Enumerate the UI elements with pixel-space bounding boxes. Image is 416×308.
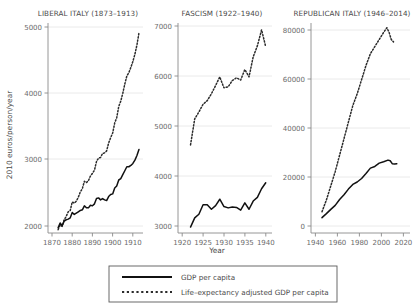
x-tick-label: 2020 [394, 239, 412, 247]
y-tick-label: 60000 [283, 76, 305, 84]
x-tick-label: 1940 [306, 239, 324, 247]
chart-svg: 2010 euros/person/year Year LIBERAL ITAL… [0, 0, 416, 308]
legend-label-gdp-per-capita: GDP per capita [181, 273, 235, 282]
x-tick-label: 1935 [236, 239, 254, 247]
x-tick-label: 1980 [350, 239, 368, 247]
y-tick-label: 2000 [24, 223, 42, 231]
y-tick-label: 80000 [283, 27, 305, 35]
x-tick-label: 1925 [194, 239, 212, 247]
y-tick-label: 5000 [24, 24, 42, 32]
legend-label-life-expectancy-adjusted: Life–expectancy adjusted GDP per capita [181, 288, 329, 297]
y-tick-label: 0 [301, 223, 305, 231]
y-tick-label: 3000 [24, 156, 42, 164]
x-tick-label: 1940 [257, 239, 275, 247]
x-tick-label: 1880 [63, 239, 81, 247]
y-tick-label: 7000 [154, 23, 172, 31]
legend: GDP per capita Life–expectancy adjusted … [109, 266, 337, 302]
x-tick-label: 1870 [43, 239, 61, 247]
x-tick-label: 2000 [372, 239, 390, 247]
x-tick-label: 1960 [328, 239, 346, 247]
x-tick-label: 1910 [124, 239, 142, 247]
y-tick-label: 20000 [283, 174, 305, 182]
x-tick-label: 1890 [83, 239, 101, 247]
y-tick-label: 3000 [154, 223, 172, 231]
y-tick-label: 6000 [154, 73, 172, 81]
panel-title-fascism: FASCISM (1922–1940) [182, 9, 263, 18]
y-tick-label: 5000 [154, 123, 172, 131]
y-tick-label: 4000 [154, 173, 172, 181]
figure-background [0, 0, 416, 308]
y-tick-label: 4000 [24, 90, 42, 98]
chart-figure: 2010 euros/person/year Year LIBERAL ITAL… [0, 0, 416, 308]
y-tick-label: 40000 [283, 125, 305, 133]
panel-title-republican-italy: REPUBLICAN ITALY (1946–2014) [294, 9, 411, 18]
x-axis-title: Year [208, 246, 226, 255]
x-tick-label: 1920 [173, 239, 191, 247]
panel-title-liberal-italy: LIBERAL ITALY (1873–1913) [38, 9, 138, 18]
x-tick-label: 1900 [104, 239, 122, 247]
y-axis-title: 2010 euros/person/year [5, 90, 14, 179]
x-tick-label: 1930 [215, 239, 233, 247]
